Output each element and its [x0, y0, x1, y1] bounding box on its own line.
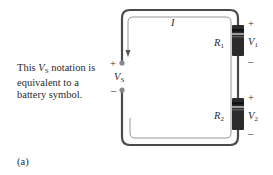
v1-label: V1 [248, 36, 258, 51]
arrow-head-icon [126, 50, 131, 57]
source-label: VS [114, 71, 124, 86]
v2-plus-sign: + [248, 92, 254, 103]
source-terminal-negative [119, 87, 124, 92]
battery-note: This VS notation is equivalent to a batt… [17, 62, 107, 101]
resistor-r2 [232, 98, 244, 130]
v1-plus-sign: + [248, 18, 254, 29]
r1-label: R1 [214, 37, 224, 52]
source-minus-sign: – [111, 85, 116, 96]
v2-label: V2 [248, 110, 258, 125]
current-label: I [171, 17, 175, 28]
figure-caption: (a) [17, 156, 29, 167]
v1-minus-sign: – [248, 56, 253, 67]
resistor-r1 [232, 25, 244, 56]
source-plus-sign: + [110, 58, 116, 69]
r2-label: R2 [214, 110, 224, 125]
source-terminal-positive [119, 60, 124, 65]
v2-minus-sign: – [248, 128, 253, 139]
